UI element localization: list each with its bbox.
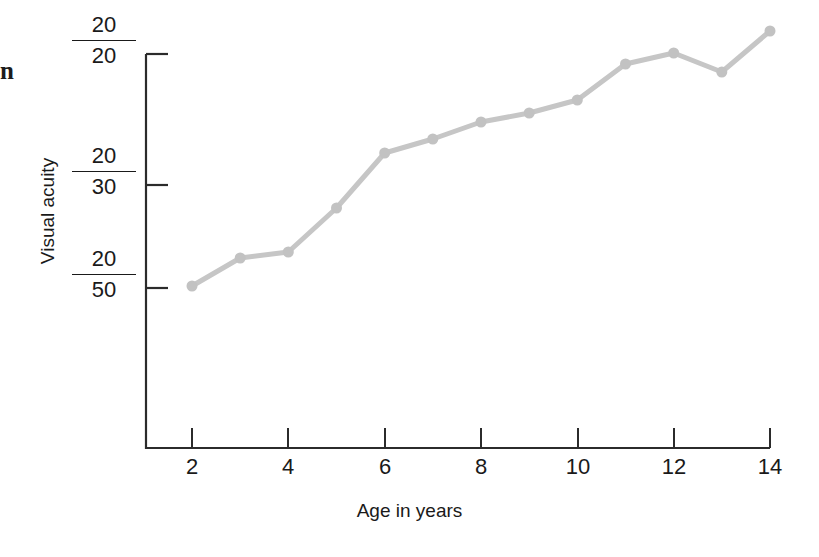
data-point <box>524 108 535 119</box>
x-tick-label-8: 8 <box>456 455 506 479</box>
data-point <box>187 281 198 292</box>
fraction-bar <box>72 274 136 275</box>
chart-page: n 20 20 20 30 20 50 2 4 <box>0 0 819 557</box>
y-tick-label-denominator: 20 <box>72 43 136 69</box>
data-point <box>235 253 246 264</box>
x-axis-title: Age in years <box>0 500 819 522</box>
x-tick-label-2: 2 <box>167 455 217 479</box>
y-axis-title: Visual acuity <box>37 101 59 321</box>
x-tick-label-4: 4 <box>263 455 313 479</box>
y-tick-label-20-20: 20 20 <box>72 12 136 69</box>
data-point <box>476 117 487 128</box>
data-point <box>765 26 776 37</box>
data-point <box>668 48 679 59</box>
x-tick-label-10: 10 <box>553 455 603 479</box>
data-point <box>620 59 631 70</box>
y-tick-label-numerator: 20 <box>72 12 136 38</box>
series-line-visual-acuity <box>192 31 770 286</box>
fraction-bar <box>72 171 136 172</box>
data-point <box>379 148 390 159</box>
data-point <box>283 247 294 258</box>
data-point <box>716 67 727 78</box>
y-tick-label-denominator: 50 <box>72 277 136 303</box>
x-tick-label-14: 14 <box>745 455 795 479</box>
data-point <box>572 95 583 106</box>
x-tick-label-6: 6 <box>360 455 410 479</box>
y-tick-label-20-30: 20 30 <box>72 143 136 200</box>
y-tick-label-numerator: 20 <box>72 143 136 169</box>
y-tick-label-20-50: 20 50 <box>72 246 136 303</box>
data-point <box>331 203 342 214</box>
y-tick-label-numerator: 20 <box>72 246 136 272</box>
x-tick-label-12: 12 <box>649 455 699 479</box>
y-tick-label-denominator: 30 <box>72 174 136 200</box>
fraction-bar <box>72 40 136 41</box>
data-point <box>427 134 438 145</box>
